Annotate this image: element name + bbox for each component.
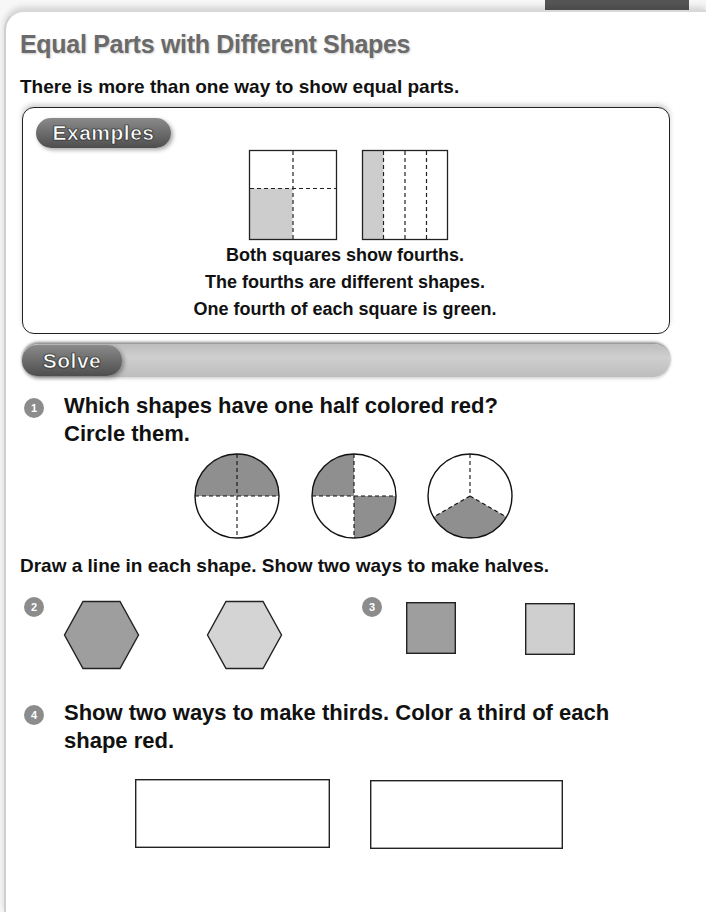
- halves-instruction: Draw a line in each shape. Show two ways…: [20, 555, 549, 577]
- page-subtitle: There is more than one way to show equal…: [20, 76, 459, 98]
- question-1-text-line1: Which shapes have one half colored red?: [64, 392, 498, 420]
- question-1-badge: 1: [24, 398, 44, 418]
- square-dark[interactable]: [406, 602, 456, 654]
- examples-label: Examples: [36, 118, 171, 148]
- page-title: Equal Parts with Different Shapes: [20, 30, 410, 59]
- thirds-rectangle-2[interactable]: [370, 780, 563, 849]
- example-square-strips: [362, 150, 448, 240]
- circle-top-half-shaded[interactable]: [194, 453, 280, 539]
- question-4-text-line2: shape red.: [64, 727, 174, 755]
- example-line-2: The fourths are different shapes.: [22, 272, 668, 293]
- question-1-text-line2: Circle them.: [64, 420, 190, 448]
- solve-label: Solve: [22, 345, 122, 376]
- example-line-1: Both squares show fourths.: [22, 245, 668, 266]
- circle-diagonal-quarters-shaded[interactable]: [311, 453, 397, 539]
- hexagon-dark[interactable]: [64, 601, 140, 669]
- square-light[interactable]: [525, 603, 575, 655]
- thirds-rectangle-1[interactable]: [135, 779, 330, 848]
- question-2-badge: 2: [24, 597, 44, 617]
- circle-one-third-shaded[interactable]: [427, 453, 513, 539]
- example-square-quadrants: [249, 150, 337, 240]
- example-line-3: One fourth of each square is green.: [22, 299, 668, 320]
- question-3-badge: 3: [362, 597, 382, 617]
- hexagon-light[interactable]: [207, 601, 283, 669]
- question-4-badge: 4: [24, 705, 44, 725]
- question-4-text-line1: Show two ways to make thirds. Color a th…: [64, 699, 609, 727]
